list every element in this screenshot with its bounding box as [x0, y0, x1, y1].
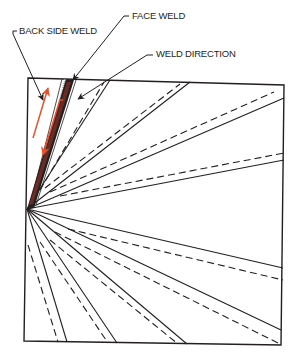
- dashed-fold-line: [50, 240, 178, 344]
- weld-pattern-diagram: [0, 0, 293, 356]
- back-side-weld-label: BACK SIDE WELD: [19, 26, 97, 36]
- panel-outline: [24, 78, 284, 345]
- solid-cut-line: [27, 209, 117, 343]
- solid-cut-line: [27, 209, 187, 344]
- solid-cut-line: [27, 209, 283, 268]
- solid-cut-line: [27, 98, 284, 209]
- solid-cut-line: [27, 209, 67, 342]
- dashed-fold-line: [28, 245, 58, 342]
- weld-direction-label: WELD DIRECTION: [156, 49, 236, 59]
- dashed-fold-line: [60, 153, 284, 196]
- face-weld-label: FACE WELD: [132, 11, 185, 21]
- dashed-fold-line: [50, 92, 274, 192]
- dashed-fold-line: [40, 242, 108, 343]
- solid-cut-line: [27, 209, 281, 330]
- lower-radial-lines: [27, 209, 283, 344]
- weld-direction-leader: [78, 55, 153, 99]
